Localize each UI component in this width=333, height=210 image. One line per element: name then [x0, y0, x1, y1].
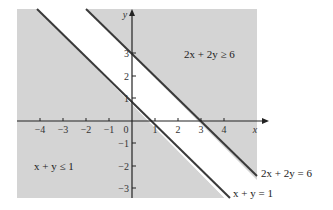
x-tick-label: −3	[58, 124, 69, 135]
y-tick-label: 3	[124, 48, 129, 59]
x-axis-label: x	[252, 124, 258, 135]
y-tick-label: −2	[118, 161, 129, 172]
x-tick-label: 3	[199, 124, 204, 135]
line-label-upper: 2x + 2y = 6	[261, 167, 312, 179]
region-label-lower: x + y ≤ 1	[34, 160, 74, 172]
y-tick-label: −1	[118, 138, 129, 149]
y-tick-label: 1	[124, 93, 129, 104]
x-tick-label: 2	[176, 124, 181, 135]
graph: −4 −3 −2 −1 0 1 2 3 4 x 3 2 1 −1 −2 −3 y…	[0, 0, 333, 210]
y-tick-label: 2	[124, 71, 129, 82]
y-tick-label: −3	[118, 183, 129, 194]
region-label-upper: 2x + 2y ≥ 6	[184, 48, 235, 60]
x-tick-label: 1	[153, 124, 158, 135]
x-tick-label: −1	[104, 124, 115, 135]
origin-label: 0	[124, 124, 129, 135]
line-label-lower: x + y = 1	[233, 187, 273, 199]
x-axis-arrow-icon	[262, 118, 269, 124]
x-tick-label: 4	[222, 124, 227, 135]
x-tick-label: −2	[81, 124, 92, 135]
y-axis-label: y	[122, 9, 128, 20]
x-tick-label: −4	[35, 124, 46, 135]
